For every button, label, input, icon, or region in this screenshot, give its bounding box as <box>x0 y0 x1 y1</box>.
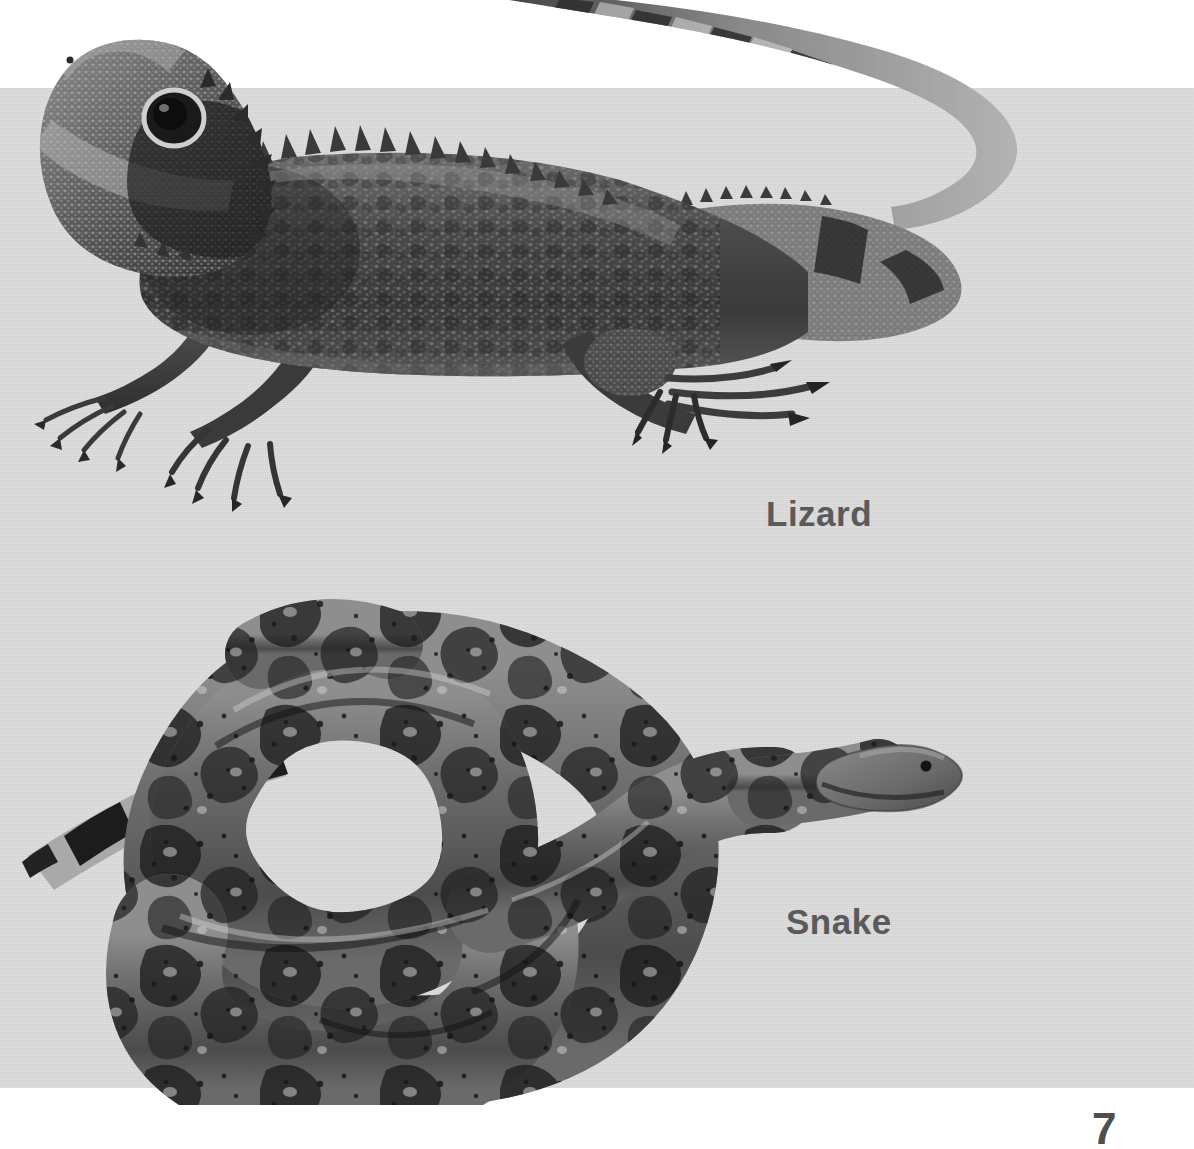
snake-eye <box>921 761 932 772</box>
lizard-eye <box>144 90 204 146</box>
lizard-head <box>20 20 300 280</box>
snake-coils <box>162 634 878 1089</box>
page-number: 7 <box>1092 1104 1116 1149</box>
lizard-caption: Lizard <box>766 494 872 534</box>
lizard-photo <box>0 0 1060 520</box>
snake-photo <box>20 580 980 1105</box>
book-page: Lizard <box>0 0 1194 1149</box>
snake-caption: Snake <box>786 902 892 942</box>
